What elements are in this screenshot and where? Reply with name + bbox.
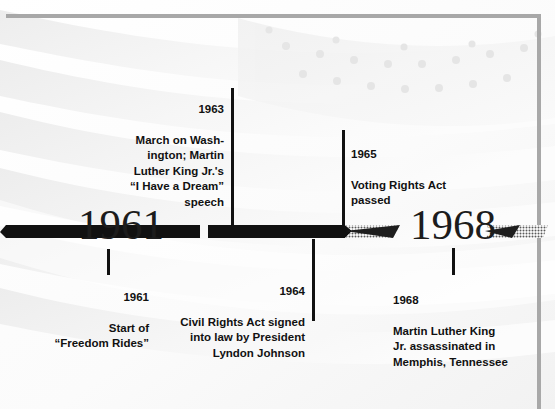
leader-line-1961 bbox=[107, 249, 110, 275]
event-description-1968: Martin Luther King Jr. assassinated in M… bbox=[393, 324, 543, 371]
frame-top-rule bbox=[6, 14, 541, 18]
event-description-1964: Civil Rights Act signed into law by Pres… bbox=[178, 315, 305, 362]
leader-line-1963 bbox=[231, 88, 234, 228]
event-block-1961: 1961 Start of “Freedom Rides” bbox=[20, 274, 149, 367]
leader-line-1964 bbox=[312, 239, 315, 321]
event-year-1968: 1968 bbox=[393, 293, 543, 309]
leader-line-1968 bbox=[452, 248, 455, 275]
event-year-1964: 1964 bbox=[178, 284, 305, 300]
event-description-1961: Start of “Freedom Rides” bbox=[20, 321, 149, 352]
leader-line-1965 bbox=[342, 130, 345, 228]
event-year-1963: 1963 bbox=[104, 102, 224, 118]
bar-segment-middle bbox=[208, 225, 352, 238]
timeline-poster: 1961 1968 1963 March on Wash- ington; Ma… bbox=[0, 0, 555, 409]
event-block-1968: 1968 Martin Luther King Jr. assassinated… bbox=[393, 277, 543, 386]
event-description-1965: Voting Rights Act passed bbox=[351, 178, 501, 209]
event-description-1963: March on Wash- ington; Martin Luther Kin… bbox=[104, 133, 224, 211]
event-year-1965: 1965 bbox=[351, 147, 501, 163]
event-year-1961: 1961 bbox=[20, 290, 149, 306]
event-block-1965: 1965 Voting Rights Act passed bbox=[351, 131, 501, 224]
event-block-1964: 1964 Civil Rights Act signed into law by… bbox=[178, 268, 305, 377]
event-block-1963: 1963 March on Wash- ington; Martin Luthe… bbox=[104, 86, 224, 226]
